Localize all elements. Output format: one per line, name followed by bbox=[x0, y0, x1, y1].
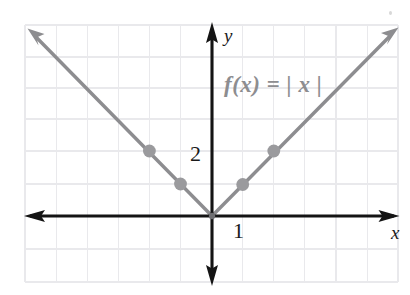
data-point bbox=[236, 178, 249, 191]
equation-function-part: f(x) bbox=[224, 72, 260, 97]
axes bbox=[30, 29, 394, 279]
data-point bbox=[143, 145, 156, 158]
coordinate-plane bbox=[0, 0, 410, 295]
graph-figure: y x 2 1 f(x) = | x | bbox=[0, 0, 410, 295]
data-point bbox=[174, 178, 187, 191]
vertex-point bbox=[209, 213, 215, 219]
y-axis-label: y bbox=[224, 26, 232, 45]
data-point bbox=[267, 145, 280, 158]
scan-speck-artifact bbox=[389, 11, 392, 15]
function-equation-label: f(x) = | x | bbox=[224, 73, 322, 96]
y-axis-tick-label-2: 2 bbox=[190, 143, 201, 165]
x-axis-tick-label-1: 1 bbox=[233, 220, 244, 242]
equation-absolute-value-part: | x | bbox=[287, 72, 323, 97]
x-axis-label: x bbox=[391, 223, 399, 242]
equation-equals-sign: = bbox=[267, 72, 281, 97]
